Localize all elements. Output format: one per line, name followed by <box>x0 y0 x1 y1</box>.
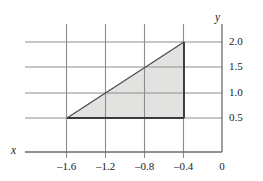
x-tick-label--0.4: –0.4 <box>165 161 202 172</box>
y-axis-label: y <box>215 12 220 23</box>
y-tick-label-1.0: 1.0 <box>229 87 243 98</box>
y-tick-label-1.5: 1.5 <box>229 61 243 72</box>
x-tick-label--1.2: –1.2 <box>87 161 124 172</box>
y-tick-label-2.0: 2.0 <box>229 36 243 47</box>
x-tick-label--1.6: –1.6 <box>48 161 85 172</box>
x-tick-label--0.8: –0.8 <box>126 161 163 172</box>
plot-svg <box>0 0 263 181</box>
y-tick-label-0.5: 0.5 <box>229 112 243 123</box>
x-tick-label-0: 0 <box>215 161 229 172</box>
x-axis-label: x <box>11 145 16 156</box>
figure-container: y x 2.0 1.5 1.0 0.5 –1.6 –1.2 –0.8 –0.4 … <box>0 0 263 181</box>
